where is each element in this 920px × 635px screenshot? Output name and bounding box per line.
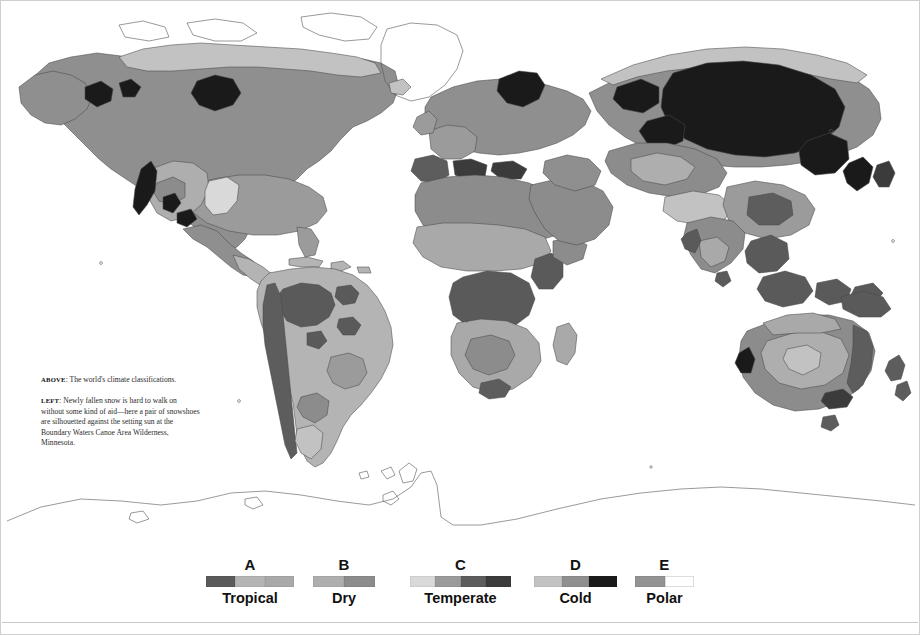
legend-label-temperate: Temperate — [410, 590, 511, 607]
legend-label-polar: Polar — [635, 590, 694, 607]
legend-swatch — [589, 576, 617, 587]
world-climate-map: .cl{stroke:#4a4a4a;stroke-width:0.55;str… — [1, 1, 919, 561]
legend-swatch — [206, 576, 235, 587]
figure-page: .cl{stroke:#4a4a4a;stroke-width:0.55;str… — [0, 0, 920, 635]
legend-letter-e: E — [635, 557, 694, 573]
legend-label-tropical: Tropical — [206, 590, 294, 607]
legend-swatch — [265, 576, 294, 587]
legend-swatches-e — [635, 576, 694, 587]
caption-left: Left: Newly fallen snow is hard to walk … — [41, 396, 201, 448]
legend-label-dry: Dry — [313, 590, 375, 607]
legend-swatch — [410, 576, 435, 587]
region-north-america — [19, 13, 463, 291]
legend-letter-d: D — [534, 557, 617, 573]
legend-group-c: C Temperate — [410, 557, 511, 607]
region-south-america — [257, 267, 393, 467]
legend-group-d: D Cold — [534, 557, 617, 607]
caption-above-text: : The world's climate classifications. — [66, 375, 177, 384]
caption-above-lead: Above — [41, 376, 66, 383]
legend-swatch — [486, 576, 511, 587]
legend-swatch — [665, 576, 695, 587]
legend-letter-a: A — [206, 557, 294, 573]
legend-swatch — [313, 576, 344, 587]
legend-letter-c: C — [410, 557, 511, 573]
caption-left-lead: Left — [41, 397, 59, 404]
legend-group-b: B Dry — [313, 557, 375, 607]
bottom-divider — [2, 622, 918, 623]
caption-above: Above: The world's climate classificatio… — [41, 375, 201, 385]
legend-swatch — [461, 576, 486, 587]
legend-swatch — [344, 576, 375, 587]
legend-swatch — [534, 576, 562, 587]
legend-group-a: A Tropical — [206, 557, 294, 607]
legend-letter-b: B — [313, 557, 375, 573]
caption-left-text: : Newly fallen snow is hard to walk on w… — [41, 396, 200, 447]
legend-swatches-d — [534, 576, 617, 587]
legend-swatch — [235, 576, 264, 587]
map-svg: .cl{stroke:#4a4a4a;stroke-width:0.55;str… — [1, 1, 919, 561]
legend-swatch — [435, 576, 460, 587]
legend-swatch — [635, 576, 665, 587]
caption-block: Above: The world's climate classificatio… — [41, 375, 201, 459]
legend-swatches-b — [313, 576, 375, 587]
legend-label-cold: Cold — [534, 590, 617, 607]
region-australia — [735, 291, 911, 431]
legend-swatch — [562, 576, 590, 587]
region-asia — [589, 47, 895, 307]
legend-swatches-c — [410, 576, 511, 587]
legend-swatches-a — [206, 576, 294, 587]
legend-group-e: E Polar — [635, 557, 694, 607]
map-legend: A Tropical B Dry C Temper — [1, 557, 919, 627]
region-antarctica — [7, 463, 915, 525]
